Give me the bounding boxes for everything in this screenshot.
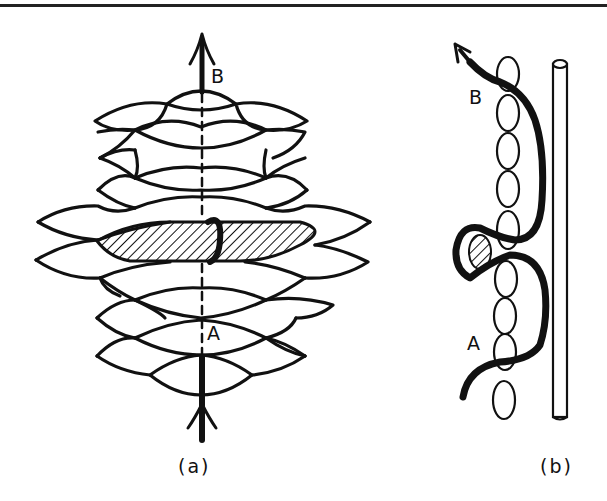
panel-a-label-a: A bbox=[207, 322, 220, 344]
panel-b-label-a: A bbox=[467, 332, 480, 354]
panel-b-rod bbox=[553, 60, 567, 420]
panel-b-caption: (b) bbox=[540, 455, 573, 477]
panel-a-hatched-inclusion bbox=[97, 220, 315, 262]
figure-canvas bbox=[0, 0, 607, 501]
panel-a-caption: (a) bbox=[178, 455, 210, 477]
panel-b-label-b: B bbox=[469, 86, 482, 108]
panel-a-label-b: B bbox=[211, 65, 224, 87]
